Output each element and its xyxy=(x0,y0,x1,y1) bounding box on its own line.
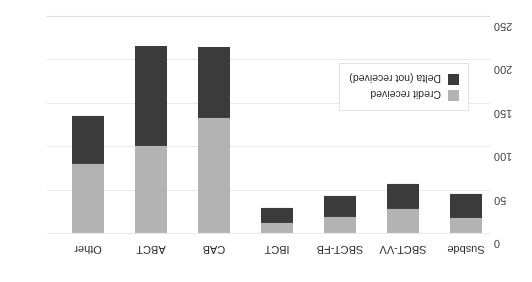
bar-segment-delta xyxy=(261,208,293,224)
ytick-label-50: 50 xyxy=(494,195,532,206)
bar-column xyxy=(261,16,293,233)
bar-group-susbde xyxy=(450,16,482,233)
plot-area: 0 50 100 150 200 250 Value ($ millions) xyxy=(47,16,490,233)
ytick-label-250: 250 xyxy=(494,21,532,32)
legend-item-credit-received: Credit received xyxy=(349,88,459,103)
ytick-label-150: 150 xyxy=(494,108,532,119)
legend-item-delta-not-received: Delta (not received) xyxy=(349,72,459,87)
bar-segment-credit xyxy=(387,209,419,233)
bar-segment-credit xyxy=(324,217,356,233)
bar-segment-credit xyxy=(198,118,230,233)
bar-segment-delta xyxy=(324,196,356,218)
category-label-other: Other xyxy=(33,244,143,255)
bar-segment-credit xyxy=(135,146,167,233)
bar-segment-credit xyxy=(261,224,293,234)
bar-column xyxy=(198,16,230,233)
bar-segment-delta xyxy=(198,47,230,117)
bar-group-sbct-fb xyxy=(324,16,356,233)
legend-label: Delta (not received) xyxy=(349,74,441,86)
bar-segment-delta xyxy=(450,194,482,218)
bar-column xyxy=(324,16,356,233)
chart-legend: Credit received Delta (not received) xyxy=(339,63,469,111)
legend-swatch-icon xyxy=(448,74,459,85)
bar-group-cab xyxy=(198,16,230,233)
bar-segment-delta xyxy=(72,116,104,164)
ytick-label-200: 200 xyxy=(494,64,532,75)
bar-segment-credit xyxy=(72,164,104,233)
bar-column xyxy=(72,16,104,233)
legend-label: Credit received xyxy=(370,90,441,102)
bar-segment-credit xyxy=(450,218,482,233)
bar-group-ibct xyxy=(261,16,293,233)
gridline-0 xyxy=(47,233,490,234)
bar-segment-delta xyxy=(387,184,419,208)
bar-group-sbct-vv xyxy=(387,16,419,233)
bar-segment-delta xyxy=(135,46,167,146)
bar-group-other xyxy=(72,16,104,233)
bar-column xyxy=(135,16,167,233)
legend-swatch-icon xyxy=(448,90,459,101)
bar-column xyxy=(450,16,482,233)
ytick-label-100: 100 xyxy=(494,151,532,162)
bar-column xyxy=(387,16,419,233)
chart-screenshot: 0 50 100 150 200 250 Value ($ millions) xyxy=(0,0,532,282)
bar-group-abct xyxy=(135,16,167,233)
rotated-chart-canvas: 0 50 100 150 200 250 Value ($ millions) xyxy=(0,0,532,282)
